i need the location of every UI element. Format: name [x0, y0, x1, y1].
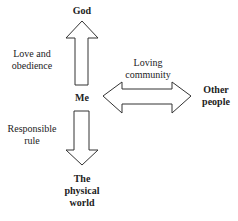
- arrows-layer: [0, 0, 238, 221]
- edge-loving-community: Loving community: [118, 57, 178, 81]
- node-god: God: [66, 5, 98, 17]
- god-label: God: [73, 5, 91, 16]
- edge-love-obedience: Love and obedience: [4, 48, 60, 72]
- down-arrow: [66, 111, 98, 165]
- bidirectional-arrow: [103, 82, 191, 113]
- me-label: Me: [75, 92, 89, 103]
- node-other-people: Other people: [196, 84, 236, 108]
- node-me: Me: [66, 92, 98, 104]
- up-arrow: [66, 21, 98, 85]
- node-physical-world: The physical world: [60, 173, 104, 209]
- edge-responsible-rule: Responsible rule: [2, 123, 62, 147]
